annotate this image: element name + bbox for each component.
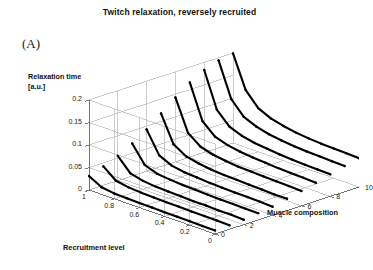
x-axis-title: Recruitment level — [63, 243, 125, 252]
data-point-marker — [264, 162, 266, 164]
data-point-marker — [181, 184, 183, 186]
data-point-marker — [156, 173, 158, 175]
data-point-marker — [232, 52, 234, 54]
data-point-marker — [291, 159, 293, 161]
data-point-marker — [117, 155, 119, 157]
data-point-marker — [228, 125, 230, 127]
data-point-marker — [214, 229, 216, 231]
data-point-marker — [277, 167, 279, 169]
data-point-marker — [153, 196, 155, 198]
data-point-marker — [208, 182, 210, 184]
data-point-marker — [212, 154, 214, 156]
data-point-marker — [129, 172, 131, 174]
data-point-marker — [300, 190, 302, 192]
data-point-marker — [225, 160, 227, 162]
data-point-marker — [174, 96, 176, 98]
z-tick-label: 10 — [365, 184, 373, 191]
data-point-marker — [190, 210, 192, 212]
data-point-marker — [151, 206, 153, 208]
y-tick-label: 0.05 — [68, 163, 82, 170]
data-point-marker — [257, 212, 259, 214]
y-tick-label: 0.1 — [72, 140, 82, 147]
data-point-marker — [262, 175, 264, 177]
data-point-marker — [88, 175, 90, 177]
data-point-marker — [171, 164, 173, 166]
data-point-marker — [216, 108, 218, 110]
data-point-marker — [192, 200, 194, 202]
data-point-marker — [315, 181, 317, 183]
z-tick-label: 4 — [279, 212, 283, 219]
data-point-marker — [345, 152, 347, 154]
data-point-marker — [205, 204, 207, 206]
data-point-marker — [333, 147, 335, 149]
data-point-marker — [230, 214, 232, 216]
data-point-marker — [180, 195, 182, 197]
data-point-marker — [138, 202, 140, 204]
data-point-marker — [304, 163, 306, 165]
data-point-marker — [158, 154, 160, 156]
data-point-marker — [189, 81, 191, 83]
data-point-marker — [219, 198, 221, 200]
data-point-marker — [201, 120, 203, 122]
data-point-marker — [286, 198, 288, 200]
data-point-marker — [246, 196, 248, 198]
data-point-marker — [203, 69, 205, 71]
data-point-marker — [223, 174, 225, 176]
data-point-marker — [244, 89, 246, 91]
data-point-marker — [214, 135, 216, 137]
data-point-marker — [268, 133, 270, 135]
data-point-marker — [172, 143, 174, 145]
data-point-marker — [261, 188, 263, 190]
x-tick-label: 0.4 — [155, 219, 165, 226]
z-tick-label: 2 — [250, 222, 254, 229]
data-point-marker — [217, 59, 219, 61]
data-point-marker — [244, 208, 246, 210]
y-axis-title-line2: [a.u.] — [28, 82, 45, 91]
data-point-marker — [252, 156, 254, 158]
data-point-marker — [237, 166, 239, 168]
data-point-marker — [307, 137, 309, 139]
data-point-marker — [160, 112, 162, 114]
data-point-marker — [196, 176, 198, 178]
data-point-marker — [295, 131, 297, 133]
data-point-marker — [126, 197, 128, 199]
data-point-marker — [167, 190, 169, 192]
data-point-marker — [144, 164, 146, 166]
data-point-marker — [302, 177, 304, 179]
data-point-marker — [239, 151, 241, 153]
data-point-marker — [226, 144, 228, 146]
y-axis-title: Relaxation time [a.u.] — [28, 72, 81, 91]
data-point-marker — [210, 169, 212, 171]
data-point-marker — [194, 189, 196, 191]
data-point-marker — [288, 185, 290, 187]
data-point-marker — [207, 193, 209, 195]
data-point-marker — [216, 219, 218, 221]
data-point-marker — [187, 132, 189, 134]
data-point-marker — [243, 116, 245, 118]
y-tick-label: 0.2 — [72, 95, 82, 102]
data-point-marker — [248, 184, 250, 186]
data-point-marker — [154, 185, 156, 187]
data-point-marker — [293, 145, 295, 147]
x-tick-label: 0.8 — [104, 202, 114, 209]
data-point-marker — [102, 165, 104, 167]
data-point-marker — [289, 172, 291, 174]
data-point-marker — [273, 193, 275, 195]
data-point-marker — [189, 220, 191, 222]
data-point-marker — [198, 162, 200, 164]
data-point-marker — [234, 191, 236, 193]
z-tick-label: 6 — [307, 203, 311, 210]
data-series-group — [88, 52, 359, 231]
data-point-marker — [331, 160, 333, 162]
data-point-marker — [270, 117, 272, 119]
data-point-marker — [176, 216, 178, 218]
data-point-marker — [279, 153, 281, 155]
data-point-marker — [142, 180, 144, 182]
data-series-line — [161, 113, 287, 198]
data-point-marker — [178, 206, 180, 208]
data-point-marker — [259, 201, 261, 203]
data-point-marker — [185, 155, 187, 157]
data-point-marker — [115, 180, 117, 182]
data-point-marker — [275, 180, 277, 182]
